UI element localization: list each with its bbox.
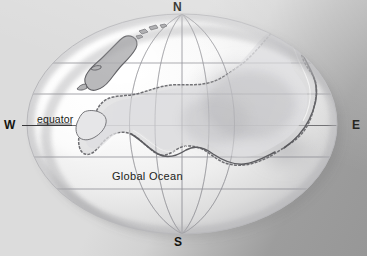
globe-figure — [0, 0, 367, 256]
compass-label-south: S — [174, 236, 182, 248]
compass-label-west: W — [4, 119, 15, 131]
compass-label-north: N — [173, 1, 182, 13]
compass-label-east: E — [352, 119, 360, 131]
illustration-background: N S W E equator Global Ocean — [0, 0, 367, 256]
equator-label: equator — [37, 113, 73, 125]
global-ocean-label: Global Ocean — [112, 170, 183, 182]
